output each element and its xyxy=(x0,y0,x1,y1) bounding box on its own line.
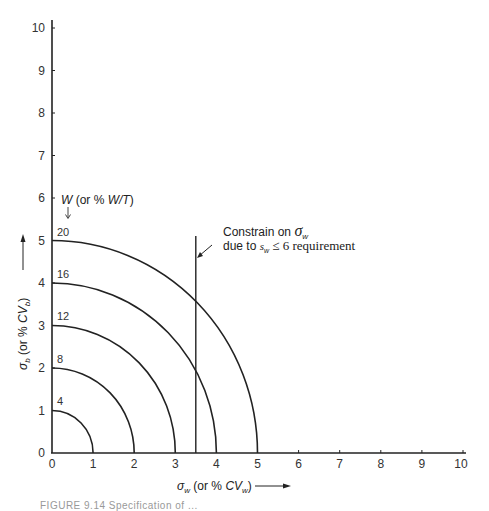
svg-text:1: 1 xyxy=(90,457,97,471)
svg-text:10: 10 xyxy=(32,21,46,35)
x-axis-label: σw (or % CVw) xyxy=(177,479,252,495)
svg-text:0: 0 xyxy=(38,446,45,460)
svg-text:6: 6 xyxy=(295,457,302,471)
svg-text:5: 5 xyxy=(254,457,261,471)
svg-text:8: 8 xyxy=(38,106,45,120)
curve-labels: 4 8 12 16 20 xyxy=(57,226,69,407)
curve-w-4 xyxy=(52,411,93,454)
curve-w-20 xyxy=(52,241,258,454)
svg-text:4: 4 xyxy=(213,457,220,471)
svg-text:3: 3 xyxy=(172,457,179,471)
svg-text:16: 16 xyxy=(57,268,69,280)
curve-w-12 xyxy=(52,326,175,454)
curve-w-16 xyxy=(52,283,216,453)
svg-text:8: 8 xyxy=(57,353,63,365)
annotation-arrow-icon xyxy=(197,245,212,258)
svg-text:3: 3 xyxy=(38,319,45,333)
x-tick-labels: 0 1 2 3 4 5 6 7 8 9 10 xyxy=(49,457,468,471)
down-arrow-icon xyxy=(66,207,71,219)
svg-text:7: 7 xyxy=(336,457,343,471)
svg-text:4: 4 xyxy=(38,276,45,290)
svg-text:1: 1 xyxy=(38,404,45,418)
svg-text:12: 12 xyxy=(57,310,69,322)
curve-w-8 xyxy=(52,368,134,453)
figure-caption: FIGURE 9.14 Specification of ... xyxy=(40,500,198,511)
y-tick-labels: 0 1 2 3 4 5 6 7 8 9 10 xyxy=(32,21,46,460)
svg-text:9: 9 xyxy=(38,64,45,78)
x-axis-arrow-icon xyxy=(255,484,291,489)
svg-text:8: 8 xyxy=(377,457,384,471)
y-axis-label: σb (or % CVb) xyxy=(16,298,32,370)
y-axis-arrow-icon xyxy=(21,234,26,270)
svg-text:7: 7 xyxy=(38,149,45,163)
svg-text:10: 10 xyxy=(454,457,468,471)
svg-text:2: 2 xyxy=(131,457,138,471)
svg-text:0: 0 xyxy=(49,457,56,471)
svg-text:2: 2 xyxy=(38,361,45,375)
svg-text:6: 6 xyxy=(38,191,45,205)
svg-text:4: 4 xyxy=(57,395,63,407)
curve-family-label: W (or % W/T) xyxy=(61,193,134,207)
svg-text:5: 5 xyxy=(38,234,45,248)
curve-series xyxy=(52,241,258,454)
svg-text:9: 9 xyxy=(419,457,426,471)
annotation-line-2: due to sw ≤ 6 requirement xyxy=(223,238,356,254)
svg-text:20: 20 xyxy=(57,226,69,238)
